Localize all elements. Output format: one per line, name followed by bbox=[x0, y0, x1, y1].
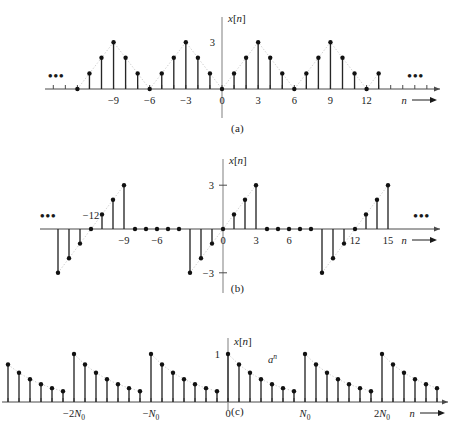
stem-dot-c bbox=[39, 382, 43, 386]
caption-b: (b) bbox=[0, 282, 475, 294]
annotation-a-power-n: an bbox=[268, 352, 277, 365]
stem-dot-a bbox=[316, 56, 320, 60]
stem-dot-b bbox=[243, 198, 247, 202]
stem-dot-c bbox=[347, 382, 351, 386]
x-tick-label-b: 3 bbox=[253, 235, 258, 246]
stem-dot-c bbox=[270, 382, 274, 386]
x-tick-label-b: 0 bbox=[220, 235, 225, 246]
stem-dot-c bbox=[17, 371, 21, 375]
stem-dot-b bbox=[155, 227, 159, 231]
y-tick-label-c: 1 bbox=[215, 349, 220, 360]
x-tick-label-b: −9 bbox=[118, 235, 129, 246]
stem-dot-a bbox=[111, 40, 115, 44]
stem-dot-c bbox=[94, 371, 98, 375]
stem-dot-b bbox=[309, 227, 313, 231]
stem-dot-a bbox=[244, 56, 248, 60]
stem-dot-c bbox=[72, 352, 76, 356]
stem-dot-b bbox=[287, 227, 291, 231]
x-axis-label-arrowhead-b bbox=[430, 237, 437, 243]
x-axis-arrow-a bbox=[434, 86, 440, 91]
y-tick-label-b: −3 bbox=[203, 268, 214, 279]
stem-dot-c bbox=[237, 362, 241, 366]
stem-dot-a bbox=[268, 56, 272, 60]
ellipsis-right-b: ••• bbox=[413, 208, 430, 223]
stem-dot-c bbox=[171, 371, 175, 375]
caption-c: (c) bbox=[0, 405, 475, 417]
stem-dot-c bbox=[83, 362, 87, 366]
stem-dot-c bbox=[402, 371, 406, 375]
stem-dot-c bbox=[138, 389, 142, 393]
stem-dot-b bbox=[133, 227, 137, 231]
x-tick-label-b: −12 bbox=[83, 210, 99, 221]
x-tick-label-a: 12 bbox=[361, 95, 372, 106]
x-axis-arrow-b bbox=[434, 226, 440, 231]
y-tick-label-a: 3 bbox=[210, 37, 215, 48]
stem-dot-a bbox=[184, 40, 188, 44]
stem-dot-a bbox=[135, 71, 139, 75]
stem-dot-b bbox=[188, 271, 192, 275]
x-axis-label-b: n bbox=[401, 235, 406, 246]
stem-dot-a bbox=[160, 71, 164, 75]
stem-dot-b bbox=[353, 227, 357, 231]
stem-dot-c bbox=[336, 377, 340, 381]
stem-dot-c bbox=[193, 382, 197, 386]
x-tick-label-a: −9 bbox=[108, 95, 119, 106]
stem-dot-c bbox=[116, 382, 120, 386]
stem-dot-c bbox=[248, 371, 252, 375]
stem-dot-a bbox=[340, 56, 344, 60]
stem-dot-b bbox=[375, 198, 379, 202]
x-tick-label-a: −6 bbox=[144, 95, 155, 106]
x-tick-label-a: 0 bbox=[219, 95, 224, 106]
stem-dot-a bbox=[292, 87, 296, 91]
y-tick-label-b: 3 bbox=[209, 180, 214, 191]
stem-dot-b bbox=[89, 227, 93, 231]
stem-dot-a bbox=[99, 56, 103, 60]
stem-dot-a bbox=[208, 71, 212, 75]
x-tick-label-b: 15 bbox=[383, 235, 394, 246]
stem-dot-b bbox=[254, 183, 258, 187]
stem-dot-c bbox=[105, 377, 109, 381]
stem-dot-a bbox=[328, 40, 332, 44]
stem-dot-a bbox=[376, 71, 380, 75]
stem-dot-c bbox=[325, 371, 329, 375]
ellipsis-left-a: ••• bbox=[48, 68, 65, 83]
stem-dot-b bbox=[111, 198, 115, 202]
figure-stem-plots: 3−9−6−3036912x[n]n•••••• (a) 3−3−12−9−60… bbox=[0, 0, 475, 435]
stem-dot-c bbox=[149, 352, 153, 356]
x-axis-label-a: n bbox=[401, 95, 406, 106]
stem-dot-b bbox=[265, 227, 269, 231]
y-axis-label-a: x[n] bbox=[227, 12, 246, 24]
x-tick-label-a: 9 bbox=[328, 95, 333, 106]
stem-dot-b bbox=[67, 256, 71, 260]
y-axis-label-c: x[n] bbox=[233, 335, 252, 347]
envelope-c bbox=[382, 354, 437, 388]
stem-dot-b bbox=[56, 271, 60, 275]
stem-dot-b bbox=[144, 227, 148, 231]
envelope-c bbox=[8, 365, 63, 392]
stem-dot-a bbox=[123, 56, 127, 60]
stem-dot-a bbox=[304, 71, 308, 75]
stem-dot-a bbox=[220, 87, 224, 91]
stem-dot-c bbox=[50, 386, 54, 390]
stem-dot-c bbox=[369, 389, 373, 393]
x-tick-label-a: 6 bbox=[292, 95, 297, 106]
x-axis-label-arrowhead-a bbox=[430, 97, 437, 103]
stem-dot-b bbox=[199, 256, 203, 260]
stem-dot-c bbox=[303, 352, 307, 356]
stem-dot-c bbox=[182, 377, 186, 381]
x-tick-label-b: 12 bbox=[350, 235, 361, 246]
stem-dot-b bbox=[122, 183, 126, 187]
stem-dot-c bbox=[424, 382, 428, 386]
stem-dot-a bbox=[256, 40, 260, 44]
stem-dot-a bbox=[196, 56, 200, 60]
stem-dot-b bbox=[100, 212, 104, 216]
stem-dot-c bbox=[204, 386, 208, 390]
stem-dot-b bbox=[232, 212, 236, 216]
x-tick-label-a: −3 bbox=[180, 95, 191, 106]
stem-dot-c bbox=[435, 386, 439, 390]
stem-dot-c bbox=[61, 389, 65, 393]
stem-dot-c bbox=[28, 377, 32, 381]
stem-dot-a bbox=[75, 87, 79, 91]
stem-dot-a bbox=[364, 87, 368, 91]
stem-dot-c bbox=[226, 352, 230, 356]
